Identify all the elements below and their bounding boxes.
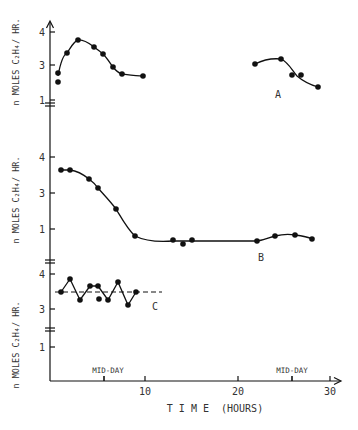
y-axis-titles: n MOLES C₂H₄/ HR. n MOLES C₂H₄/ HR. n MO… [11,19,21,389]
ylabel-b: n MOLES C₂H₄/ HR. [11,157,21,244]
x-axis [50,376,341,385]
tick-c-4: 4 [39,269,45,280]
tick-a-3: 3 [39,60,45,71]
midday-label-1: MID-DAY [92,366,124,375]
series-a: A [55,37,321,100]
midday-labels: MID-DAY MID-DAY [92,366,308,375]
panel-c-label: C [152,301,158,312]
ylabel-a: n MOLES C₂H₄/ HR. [11,19,21,106]
y-tick-labels: 4 3 1 4 3 1 4 3 1 [39,27,45,353]
tick-b-3: 3 [39,188,45,199]
tick-a-1: 1 [39,95,45,106]
panel-a-label: A [275,89,281,100]
xtick-20: 20 [232,386,244,397]
chart-figure: 4 3 1 4 3 1 4 3 1 n MOLES C₂H₄/ HR. n MO… [0,0,358,430]
tick-b-4: 4 [39,152,45,163]
x-axis-title: T I M E (HOURS) [167,403,263,414]
y-axis [45,21,55,381]
xtick-10: 10 [139,386,151,397]
series-b: B [58,167,315,263]
series-c: C [55,276,162,312]
tick-b-1: 1 [39,224,45,235]
xtick-30: 30 [324,386,336,397]
tick-a-4: 4 [39,27,45,38]
ylabel-c: n MOLES C₂H₄/ HR. [11,302,21,389]
x-tick-labels: 10 20 30 [139,386,336,397]
panel-b-label: B [258,252,264,263]
tick-c-3: 3 [39,304,45,315]
tick-c-1: 1 [39,342,45,353]
midday-label-2: MID-DAY [276,366,308,375]
